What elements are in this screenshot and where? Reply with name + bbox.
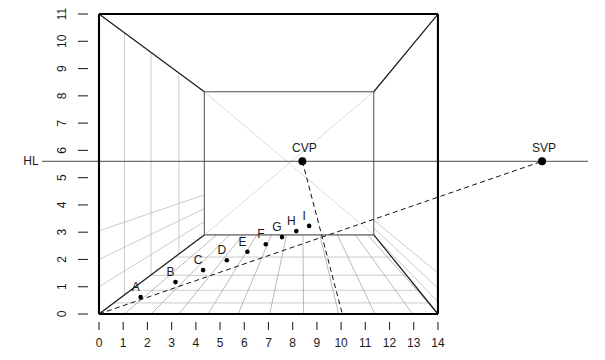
measuring-point-label-E: E (238, 235, 246, 249)
y-tick-label-10: 10 (55, 34, 69, 48)
x-tick-label-6: 6 (241, 336, 248, 350)
x-tick-label-14: 14 (431, 336, 445, 350)
horizon-line-label: HL (23, 154, 39, 168)
measuring-point-H (294, 229, 299, 234)
x-tick-label-8: 8 (289, 336, 296, 350)
y-tick-label-11: 11 (55, 7, 69, 20)
x-tick-label-13: 13 (407, 336, 421, 350)
measuring-point-D (225, 258, 230, 263)
y-tick-label-3: 3 (55, 229, 69, 236)
measuring-point-F (264, 242, 269, 247)
vanishing-point-label-svp: SVP (532, 141, 556, 155)
vanishing-point-label-cvp: CVP (292, 141, 317, 155)
y-tick-label-2: 2 (55, 256, 69, 263)
x-tick-label-10: 10 (334, 336, 348, 350)
measuring-point-label-C: C (194, 253, 203, 267)
measuring-point-label-B: B (166, 265, 174, 279)
y-tick-label-6: 6 (55, 147, 69, 154)
x-tick-label-11: 11 (359, 336, 372, 350)
x-tick-label-7: 7 (265, 336, 272, 350)
vanishing-point-cvp (298, 157, 306, 165)
measuring-point-label-D: D (217, 243, 226, 257)
vanishing-point-svp (538, 157, 546, 165)
y-tick-label-7: 7 (55, 119, 69, 126)
perspective-diagram: 0123456789101112131401234567891011HL ABC… (0, 0, 605, 360)
measuring-point-label-G: G (272, 220, 281, 234)
measuring-point-E (245, 250, 250, 255)
measuring-point-G (280, 235, 285, 240)
measuring-point-A (138, 295, 143, 300)
measuring-point-B (173, 280, 178, 285)
measuring-point-label-A: A (132, 280, 140, 294)
x-tick-label-2: 2 (144, 336, 151, 350)
x-tick-label-5: 5 (217, 336, 224, 350)
x-tick-label-9: 9 (314, 336, 321, 350)
y-tick-label-9: 9 (55, 65, 69, 72)
measuring-point-I (307, 224, 312, 229)
y-tick-label-8: 8 (55, 92, 69, 99)
canvas-background (0, 0, 605, 360)
x-tick-label-12: 12 (383, 336, 397, 350)
measuring-point-C (201, 268, 206, 273)
x-tick-label-1: 1 (120, 336, 127, 350)
measuring-point-label-I: I (302, 209, 305, 223)
y-tick-label-5: 5 (55, 174, 69, 181)
y-tick-label-0: 0 (55, 310, 69, 317)
y-tick-label-4: 4 (55, 201, 69, 208)
x-tick-label-0: 0 (96, 336, 103, 350)
y-tick-label-1: 1 (55, 283, 69, 290)
x-tick-label-4: 4 (192, 336, 199, 350)
measuring-point-label-H: H (287, 214, 296, 228)
x-tick-label-3: 3 (168, 336, 175, 350)
measuring-point-label-F: F (257, 227, 264, 241)
